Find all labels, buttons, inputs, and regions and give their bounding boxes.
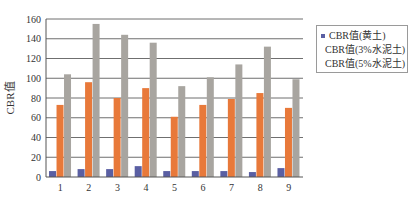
bar bbox=[249, 172, 256, 177]
bar bbox=[49, 171, 56, 177]
bar bbox=[207, 77, 214, 177]
bar bbox=[106, 169, 113, 177]
x-axis-ticks: 123456789 bbox=[58, 182, 291, 193]
y-tick-label: 80 bbox=[31, 93, 41, 104]
x-tick-label: 5 bbox=[172, 182, 177, 193]
legend-swatch-icon bbox=[321, 34, 325, 38]
bars bbox=[49, 24, 299, 177]
y-tick-label: 100 bbox=[26, 73, 41, 84]
y-axis-ticks: 020406080100120140160 bbox=[26, 14, 41, 183]
bar bbox=[228, 99, 235, 177]
x-tick-label: 9 bbox=[286, 182, 291, 193]
legend-item: CBR值(5%水泥土) bbox=[321, 57, 403, 71]
legend-label: CBR值(5%水泥土) bbox=[325, 57, 405, 71]
y-axis-label: CBR值 bbox=[4, 81, 16, 114]
legend-label: CBR值(黄土) bbox=[329, 29, 386, 43]
bar bbox=[121, 35, 128, 177]
legend-item: CBR值(3%水泥土) bbox=[321, 43, 403, 57]
x-tick-label: 4 bbox=[143, 182, 148, 193]
y-tick-label: 160 bbox=[26, 14, 41, 25]
x-tick-label: 3 bbox=[115, 182, 120, 193]
bar bbox=[85, 82, 92, 177]
x-tick-label: 8 bbox=[258, 182, 263, 193]
x-tick-label: 2 bbox=[86, 182, 91, 193]
bar bbox=[163, 171, 170, 177]
y-tick-label: 20 bbox=[31, 152, 41, 163]
bar bbox=[142, 88, 149, 177]
x-tick-label: 7 bbox=[229, 182, 234, 193]
bar bbox=[199, 105, 206, 177]
bar bbox=[285, 108, 292, 177]
bar bbox=[93, 24, 100, 177]
bar bbox=[277, 168, 284, 177]
bar bbox=[264, 47, 271, 177]
legend-item: CBR值(黄土) bbox=[321, 29, 403, 43]
bar bbox=[192, 171, 199, 177]
y-tick-label: 40 bbox=[31, 132, 41, 143]
bar bbox=[292, 79, 299, 177]
legend: CBR值(黄土)CBR值(3%水泥土)CBR值(5%水泥土) bbox=[316, 25, 408, 73]
bar bbox=[64, 74, 71, 177]
bar bbox=[171, 117, 178, 177]
bar bbox=[150, 43, 157, 177]
bar bbox=[235, 64, 242, 177]
bar bbox=[114, 98, 121, 177]
bar bbox=[256, 93, 263, 177]
y-tick-label: 60 bbox=[31, 112, 41, 123]
legend-label: CBR值(3%水泥土) bbox=[325, 43, 405, 57]
x-tick-label: 6 bbox=[201, 182, 206, 193]
bar bbox=[57, 105, 64, 177]
bar bbox=[135, 166, 142, 177]
y-tick-label: 0 bbox=[36, 172, 41, 183]
bar bbox=[178, 86, 185, 177]
y-tick-label: 140 bbox=[26, 33, 41, 44]
bar bbox=[220, 171, 227, 177]
bar bbox=[78, 169, 85, 177]
x-tick-label: 1 bbox=[58, 182, 63, 193]
y-tick-label: 120 bbox=[26, 53, 41, 64]
